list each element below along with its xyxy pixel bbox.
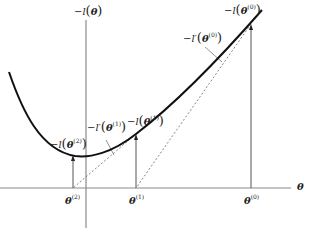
tangent-line-0 bbox=[136, 24, 251, 188]
arrow-theta-1 bbox=[134, 134, 138, 188]
y-axis-label: −l(θ) bbox=[74, 4, 102, 17]
newton-method-diagram: −l(θ) θ θ(2) θ(1) θ(0) −l(θ(2)) −l(θ(1))… bbox=[0, 0, 309, 233]
tangent-label-0: −l′(θ(0)) bbox=[183, 31, 222, 44]
tick-theta-0: θ(0) bbox=[244, 194, 259, 206]
tangent-label-1: −l′(θ(1)) bbox=[87, 120, 126, 133]
leader-tangent-0 bbox=[205, 47, 222, 62]
tick-theta-1: θ(1) bbox=[129, 194, 144, 206]
leader-tangent-1 bbox=[106, 140, 114, 155]
x-axis-label: θ bbox=[297, 182, 304, 192]
point-label-2: −l(θ(2)) bbox=[50, 137, 87, 150]
tick-theta-2: θ(2) bbox=[65, 194, 80, 206]
objective-curve bbox=[9, 10, 262, 156]
arrow-theta-2 bbox=[71, 155, 75, 188]
point-label-1: −l(θ(1)) bbox=[127, 114, 164, 127]
point-label-0: −l(θ(0)) bbox=[224, 3, 261, 16]
arrow-theta-0 bbox=[249, 24, 253, 188]
